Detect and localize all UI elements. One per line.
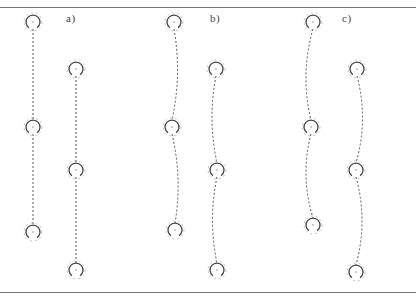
dashed-link <box>306 29 313 120</box>
ring-chains-svg <box>0 0 416 295</box>
ring-center-dot <box>215 68 216 69</box>
dashed-link <box>213 177 218 263</box>
ring-center-dot <box>355 169 356 170</box>
ring-center-dot <box>312 21 313 22</box>
panel-label-c: c) <box>342 12 352 24</box>
panel-label-a: a) <box>66 12 76 24</box>
ring-center-dot <box>173 21 174 22</box>
dashed-link <box>356 177 362 265</box>
dashed-link <box>306 134 313 218</box>
ring-center-dot <box>216 269 217 270</box>
ring-center-dot <box>216 169 217 170</box>
ring-center-dot <box>171 126 172 127</box>
dashed-link <box>172 29 178 120</box>
ring-center-dot <box>32 126 33 127</box>
dashed-link <box>212 76 217 163</box>
ring-chain <box>67 60 85 279</box>
ring-center-dot <box>75 269 76 270</box>
chain-diagram-figure: a) b) c) <box>0 0 416 295</box>
ring-center-dot <box>310 126 311 127</box>
ring-center-dot <box>356 68 357 69</box>
ring-center-dot <box>174 229 175 230</box>
ring-center-dot <box>355 271 356 272</box>
panel-label-b: b) <box>210 12 220 24</box>
ring-chain <box>347 60 366 281</box>
ring-chain <box>24 13 42 241</box>
ring-chain <box>163 13 184 239</box>
dashed-link <box>172 134 178 223</box>
ring-center-dot <box>32 231 33 232</box>
ring-center-dot <box>75 169 76 170</box>
ring-center-dot <box>32 21 33 22</box>
ring-chain <box>302 13 322 234</box>
ring-center-dot <box>312 224 313 225</box>
ring-chain <box>207 60 226 279</box>
dashed-link <box>356 76 363 163</box>
ring-center-dot <box>75 68 76 69</box>
